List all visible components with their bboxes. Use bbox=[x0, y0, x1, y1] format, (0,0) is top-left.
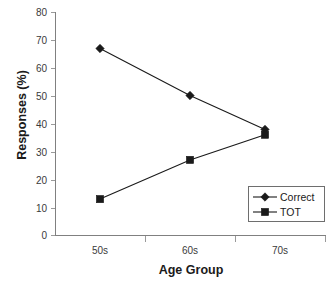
y-tick-label: 20 bbox=[36, 175, 48, 186]
chart-figure: Responses (%) Age Group 80 70 60 50 40 3… bbox=[0, 0, 332, 287]
x-axis-tick-labels: 50s 60s 70s bbox=[92, 245, 288, 256]
data-point-marker bbox=[261, 131, 268, 138]
x-tick-label: 70s bbox=[272, 245, 288, 256]
y-tick-label: 80 bbox=[36, 7, 48, 18]
square-marker-icon bbox=[261, 208, 268, 215]
y-tick-label: 0 bbox=[41, 230, 47, 241]
data-point-marker bbox=[186, 91, 194, 99]
y-tick-label: 10 bbox=[36, 203, 48, 214]
y-tick-label: 40 bbox=[36, 119, 48, 130]
data-point-marker bbox=[186, 156, 193, 163]
y-axis-tick-labels: 80 70 60 50 40 30 20 10 0 bbox=[36, 7, 48, 241]
y-tick-label: 60 bbox=[36, 63, 48, 74]
series-correct-line bbox=[100, 49, 265, 130]
series-tot bbox=[96, 131, 268, 203]
plot-area: 80 70 60 50 40 30 20 10 0 50s 60s 70s bbox=[0, 0, 332, 287]
series-tot-line bbox=[100, 135, 265, 199]
series-correct bbox=[96, 44, 269, 133]
legend-label-tot: TOT bbox=[280, 206, 301, 218]
x-tick-label: 60s bbox=[182, 245, 198, 256]
y-tick-label: 50 bbox=[36, 91, 48, 102]
data-point-marker bbox=[96, 196, 103, 203]
data-point-marker bbox=[96, 44, 104, 52]
legend-label-correct: Correct bbox=[280, 191, 315, 203]
y-tick-label: 70 bbox=[36, 35, 48, 46]
y-tick-label: 30 bbox=[36, 147, 48, 158]
x-tick-label: 50s bbox=[92, 245, 108, 256]
y-axis-ticks bbox=[51, 13, 55, 236]
chart-legend[interactable]: Correct TOT bbox=[249, 187, 325, 222]
x-axis-ticks bbox=[146, 236, 326, 242]
